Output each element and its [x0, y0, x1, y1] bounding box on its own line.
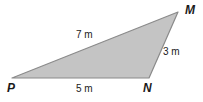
vertex-label-p: P [7, 82, 15, 94]
side-length-label-pn: 5 m [76, 84, 93, 94]
side-length-label-mn: 3 m [163, 47, 180, 57]
vertex-label-m: M [185, 4, 195, 16]
geometry-figure-triangle: P N M 7 m 3 m 5 m [0, 0, 203, 102]
side-length-label-pm: 7 m [76, 30, 93, 40]
vertex-label-n: N [143, 82, 152, 94]
triangle-polygon-PNM [12, 12, 178, 78]
